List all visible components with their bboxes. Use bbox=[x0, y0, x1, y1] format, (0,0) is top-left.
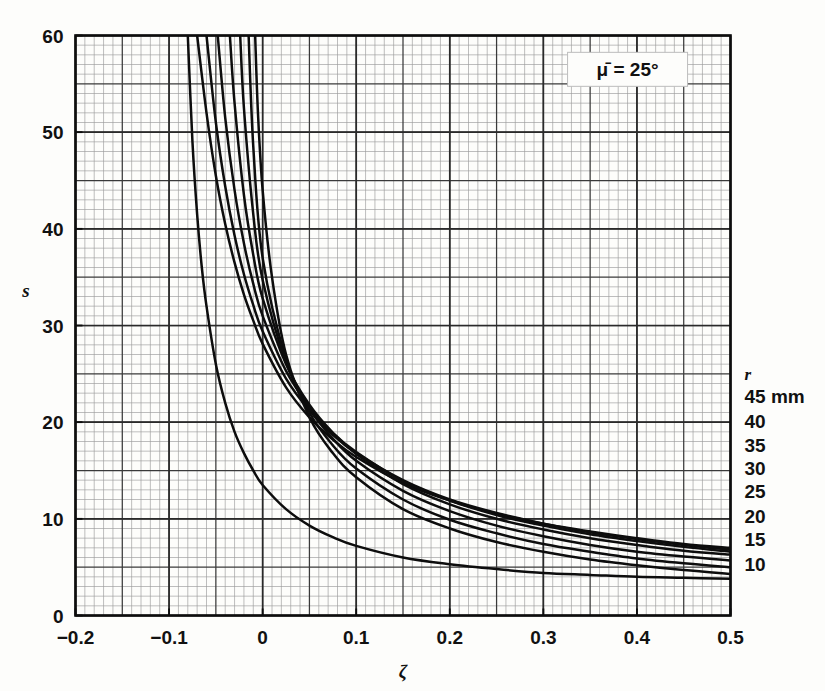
annotation-mu-bar: μ̄ = 25° bbox=[568, 52, 688, 86]
chart-svg: −0.2−0.100.10.20.30.40.5 0102030405060 ζ… bbox=[0, 0, 825, 691]
curve-end-label-25: 25 bbox=[745, 481, 767, 502]
x-tick-label: 0.2 bbox=[437, 627, 463, 648]
y-tick-label: 30 bbox=[42, 316, 63, 337]
curve-end-label-10: 10 bbox=[745, 554, 766, 575]
curve-end-label-r: r bbox=[745, 365, 752, 384]
curve-end-label-15: 15 bbox=[745, 529, 767, 550]
x-tick-label: 0.1 bbox=[343, 627, 370, 648]
x-tick-label: −0.1 bbox=[150, 627, 188, 648]
y-tick-label: 50 bbox=[42, 122, 63, 143]
curve-end-label-35: 35 bbox=[745, 435, 767, 456]
y-tick-label: 60 bbox=[42, 26, 63, 47]
curve-end-label-20: 20 bbox=[745, 506, 766, 527]
x-tick-label: 0 bbox=[257, 627, 268, 648]
curve-end-label-45-mm: 45 mm bbox=[745, 386, 805, 407]
x-tick-label: 0.4 bbox=[624, 627, 651, 648]
x-tick-label: 0.3 bbox=[530, 627, 556, 648]
curve-end-label-30: 30 bbox=[745, 458, 766, 479]
y-axis-label: s bbox=[21, 280, 29, 301]
y-tick-label: 10 bbox=[42, 509, 63, 530]
annotation-text: μ̄ = 25° bbox=[597, 59, 659, 80]
y-tick-label: 0 bbox=[53, 606, 64, 627]
figure-chart-s-vs-zeta: −0.2−0.100.10.20.30.40.5 0102030405060 ζ… bbox=[0, 0, 825, 691]
y-tick-label: 20 bbox=[42, 412, 63, 433]
x-tick-label: −0.2 bbox=[57, 627, 95, 648]
y-tick-label: 40 bbox=[42, 219, 63, 240]
x-tick-label: 0.5 bbox=[717, 627, 744, 648]
curve-end-label-40: 40 bbox=[745, 411, 766, 432]
x-axis-label: ζ bbox=[399, 661, 408, 682]
